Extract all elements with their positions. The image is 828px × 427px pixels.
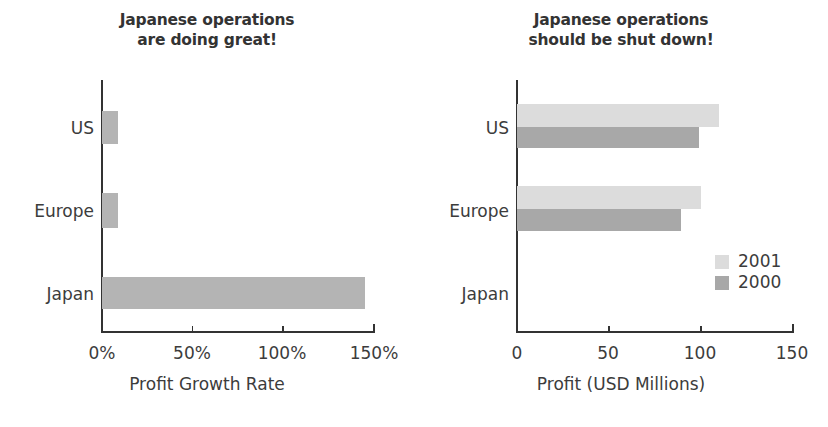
x-axis-title-left: Profit Growth Rate [0, 376, 414, 393]
figure-two-bar-charts: Japanese operations are doing great! US … [0, 0, 828, 427]
x-tick-label-right-150: 150 [747, 345, 828, 362]
x-tick-right-100 [700, 326, 702, 333]
x-tick-right-150 [792, 324, 794, 333]
x-axis-line-left [101, 331, 375, 333]
x-tick-left-100 [282, 326, 284, 333]
x-tick-label-left-50: 50% [147, 345, 237, 362]
x-tick-label-right-50: 50 [563, 345, 653, 362]
cat-label-left-japan: Japan [0, 286, 94, 303]
bar-left-us [102, 111, 118, 144]
cat-label-left-europe: Europe [0, 203, 94, 220]
legend-label-2001: 2001 [738, 252, 781, 271]
bar-left-japan [102, 277, 365, 309]
x-tick-left-0 [101, 324, 103, 333]
bar-right-us-2001 [517, 104, 719, 127]
x-tick-label-left-150: 150% [329, 345, 419, 362]
cat-label-right-us: US [414, 120, 509, 137]
plot-area-right: 2001 2000 [517, 80, 793, 333]
chart-title-right: Japanese operations should be shut down! [414, 10, 828, 50]
x-tick-label-right-0: 0 [472, 345, 562, 362]
bar-right-europe-2001 [517, 186, 701, 209]
chart-panel-right: Japanese operations should be shut down! [414, 0, 828, 427]
bar-left-europe [102, 193, 118, 228]
x-tick-right-0 [516, 324, 518, 333]
bar-right-us-2000 [517, 127, 699, 148]
x-tick-label-left-0: 0% [57, 345, 147, 362]
x-tick-label-left-100: 100% [237, 345, 327, 362]
chart-panel-left: Japanese operations are doing great! US … [0, 0, 414, 427]
x-axis-title-right: Profit (USD Millions) [414, 376, 828, 393]
legend-right: 2001 2000 [715, 252, 795, 296]
cat-label-left-us: US [0, 120, 94, 137]
plot-area-left [102, 80, 374, 333]
x-axis-line-right [516, 331, 794, 333]
bar-right-europe-2000 [517, 209, 681, 231]
x-tick-left-150 [373, 324, 375, 333]
cat-label-right-europe: Europe [414, 203, 509, 220]
legend-swatch-2000-icon [715, 276, 729, 290]
x-tick-right-50 [608, 326, 610, 333]
legend-label-2000: 2000 [738, 273, 781, 292]
legend-swatch-2001-icon [715, 255, 729, 269]
x-tick-left-50 [192, 326, 194, 333]
x-tick-label-right-100: 100 [655, 345, 745, 362]
cat-label-right-japan: Japan [414, 286, 509, 303]
chart-title-left: Japanese operations are doing great! [0, 10, 414, 50]
